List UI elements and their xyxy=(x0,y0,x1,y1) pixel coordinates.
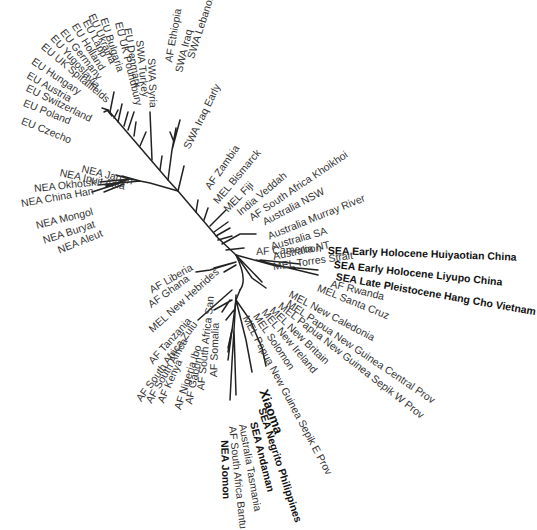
leaf-label: NEA Jomon xyxy=(219,440,233,500)
leaf-label: SWA Syria xyxy=(146,58,160,108)
